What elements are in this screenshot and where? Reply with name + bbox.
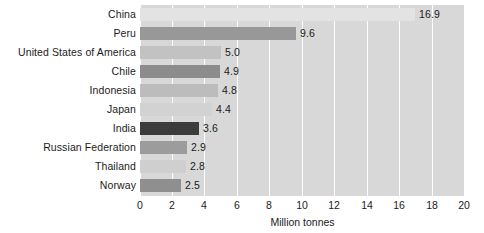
category-label-india: India xyxy=(0,122,136,135)
bar-peru xyxy=(140,27,296,40)
bar-russian-federation xyxy=(140,141,187,154)
value-label-thailand: 2.8 xyxy=(190,160,205,173)
value-label-norway: 2.5 xyxy=(185,179,200,192)
gridline-20 xyxy=(464,5,465,196)
value-label-chile: 4.9 xyxy=(224,65,239,78)
value-label-united-states-of-america: 5.0 xyxy=(225,46,240,59)
value-label-russian-federation: 2.9 xyxy=(191,141,206,154)
category-label-japan: Japan xyxy=(0,103,136,116)
x-tick-6: 6 xyxy=(234,198,240,212)
bar-united-states-of-america xyxy=(140,46,221,59)
category-label-norway: Norway xyxy=(0,179,136,192)
gridline-12 xyxy=(334,5,335,196)
x-tick-12: 12 xyxy=(328,198,340,212)
value-label-china: 16.9 xyxy=(419,8,440,21)
bar-india xyxy=(140,122,199,135)
bar-indonesia xyxy=(140,84,218,97)
value-label-india: 3.6 xyxy=(203,122,218,135)
horizontal-bar-chart: China Peru United States of America Chil… xyxy=(0,0,484,233)
bar-thailand xyxy=(140,160,186,173)
plot-area: 16.9 9.6 5.0 4.9 4.8 4.4 3.6 2.9 2.8 2.5 xyxy=(140,5,465,196)
value-label-peru: 9.6 xyxy=(300,27,315,40)
x-tick-8: 8 xyxy=(266,198,272,212)
gridline-16 xyxy=(399,5,400,196)
value-label-japan: 4.4 xyxy=(216,103,231,116)
bar-china xyxy=(140,8,415,21)
x-tick-18: 18 xyxy=(426,198,438,212)
bar-chile xyxy=(140,65,220,78)
x-axis-title: Million tonnes xyxy=(140,215,465,229)
x-tick-10: 10 xyxy=(296,198,308,212)
bar-japan xyxy=(140,103,212,116)
gridline-14 xyxy=(367,5,368,196)
value-label-indonesia: 4.8 xyxy=(222,84,237,97)
x-tick-4: 4 xyxy=(201,198,207,212)
x-tick-16: 16 xyxy=(393,198,405,212)
category-label-peru: Peru xyxy=(0,27,136,40)
category-label-thailand: Thailand xyxy=(0,160,136,173)
bar-norway xyxy=(140,179,181,192)
x-axis-tick-labels: 0 2 4 6 8 10 12 14 16 18 20 xyxy=(140,198,465,214)
category-label-china: China xyxy=(0,8,136,21)
x-tick-2: 2 xyxy=(169,198,175,212)
category-label-indonesia: Indonesia xyxy=(0,84,136,97)
category-label-united-states-of-america: United States of America xyxy=(0,46,136,59)
x-tick-0: 0 xyxy=(137,198,143,212)
category-label-russian-federation: Russian Federation xyxy=(0,141,136,154)
category-axis: China Peru United States of America Chil… xyxy=(0,5,136,196)
x-tick-14: 14 xyxy=(361,198,373,212)
x-tick-20: 20 xyxy=(458,198,470,212)
category-label-chile: Chile xyxy=(0,65,136,78)
gridline-18 xyxy=(432,5,433,196)
